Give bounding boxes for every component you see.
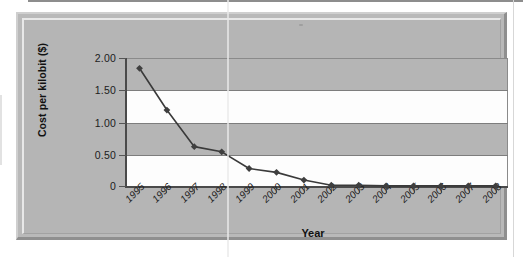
scan-seam-artifact: [227, 0, 229, 257]
scan-speck-artifact: [299, 24, 303, 26]
series-line: [140, 68, 496, 186]
data-point-2006: [438, 182, 445, 189]
page-left-rule: [0, 95, 2, 165]
data-point-2003: [355, 182, 362, 189]
series-markers: [136, 65, 499, 189]
data-point-2008: [492, 182, 499, 189]
data-point-2005: [410, 182, 417, 189]
data-point-2002: [328, 182, 335, 189]
page-top-rule: [28, 0, 523, 2]
data-point-2007: [465, 182, 472, 189]
data-point-2001: [301, 177, 308, 184]
data-series-layer: [18, 14, 509, 242]
page-right-rule: [513, 0, 514, 257]
data-point-2004: [383, 182, 390, 189]
chart-frame: Cost per kilobit ($) 2.00 1.50 1.00 0.50…: [16, 12, 507, 240]
chart-plot-surface: Cost per kilobit ($) 2.00 1.50 1.00 0.50…: [18, 14, 509, 242]
data-point-2000: [273, 169, 280, 176]
